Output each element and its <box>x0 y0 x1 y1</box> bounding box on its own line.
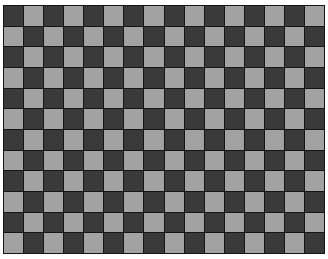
dark-square <box>265 109 284 129</box>
dark-square <box>44 213 63 233</box>
light-square <box>245 192 264 212</box>
light-square <box>84 233 103 253</box>
dark-square <box>124 6 143 26</box>
light-square <box>24 171 43 191</box>
light-square <box>205 151 224 171</box>
light-square <box>24 6 43 26</box>
light-square <box>185 89 204 109</box>
light-square <box>64 89 83 109</box>
light-square <box>265 171 284 191</box>
light-square <box>305 213 324 233</box>
light-square <box>245 151 264 171</box>
light-square <box>104 47 123 67</box>
dark-square <box>84 171 103 191</box>
dark-square <box>64 27 83 47</box>
light-square <box>84 27 103 47</box>
light-square <box>305 6 324 26</box>
light-square <box>165 192 184 212</box>
dark-square <box>285 89 304 109</box>
light-square <box>245 27 264 47</box>
light-square <box>84 151 103 171</box>
checkerboard <box>3 5 325 254</box>
light-square <box>265 6 284 26</box>
dark-square <box>185 109 204 129</box>
dark-square <box>185 68 204 88</box>
dark-square <box>84 6 103 26</box>
dark-square <box>104 27 123 47</box>
dark-square <box>44 171 63 191</box>
dark-square <box>205 213 224 233</box>
light-square <box>205 192 224 212</box>
dark-square <box>225 109 244 129</box>
light-square <box>265 47 284 67</box>
dark-square <box>205 47 224 67</box>
dark-square <box>165 6 184 26</box>
light-square <box>144 47 163 67</box>
light-square <box>84 192 103 212</box>
dark-square <box>245 213 264 233</box>
dark-square <box>104 109 123 129</box>
dark-square <box>104 192 123 212</box>
dark-square <box>104 233 123 253</box>
dark-square <box>64 151 83 171</box>
dark-square <box>285 47 304 67</box>
light-square <box>165 27 184 47</box>
light-square <box>24 89 43 109</box>
dark-square <box>44 89 63 109</box>
dark-square <box>4 171 23 191</box>
dark-square <box>165 213 184 233</box>
light-square <box>165 151 184 171</box>
light-square <box>185 213 204 233</box>
dark-square <box>24 192 43 212</box>
light-square <box>104 213 123 233</box>
dark-square <box>245 89 264 109</box>
light-square <box>4 27 23 47</box>
light-square <box>4 68 23 88</box>
light-square <box>205 68 224 88</box>
light-square <box>44 151 63 171</box>
dark-square <box>225 68 244 88</box>
light-square <box>24 47 43 67</box>
light-square <box>144 130 163 150</box>
dark-square <box>205 130 224 150</box>
light-square <box>24 130 43 150</box>
light-square <box>285 192 304 212</box>
light-square <box>245 68 264 88</box>
light-square <box>285 109 304 129</box>
dark-square <box>245 171 264 191</box>
light-square <box>124 27 143 47</box>
dark-square <box>225 233 244 253</box>
dark-square <box>305 151 324 171</box>
light-square <box>4 151 23 171</box>
dark-square <box>225 192 244 212</box>
dark-square <box>124 171 143 191</box>
light-square <box>64 130 83 150</box>
dark-square <box>124 89 143 109</box>
dark-square <box>185 192 204 212</box>
light-square <box>44 192 63 212</box>
light-square <box>205 233 224 253</box>
dark-square <box>104 68 123 88</box>
light-square <box>165 233 184 253</box>
dark-square <box>265 151 284 171</box>
dark-square <box>124 47 143 67</box>
dark-square <box>144 68 163 88</box>
light-square <box>165 109 184 129</box>
dark-square <box>24 109 43 129</box>
light-square <box>305 47 324 67</box>
light-square <box>84 68 103 88</box>
dark-square <box>285 171 304 191</box>
light-square <box>84 109 103 129</box>
light-square <box>104 171 123 191</box>
dark-square <box>64 233 83 253</box>
dark-square <box>144 109 163 129</box>
light-square <box>205 109 224 129</box>
dark-square <box>24 68 43 88</box>
dark-square <box>225 151 244 171</box>
dark-square <box>4 213 23 233</box>
light-square <box>225 171 244 191</box>
dark-square <box>124 130 143 150</box>
dark-square <box>24 233 43 253</box>
light-square <box>64 171 83 191</box>
dark-square <box>84 213 103 233</box>
